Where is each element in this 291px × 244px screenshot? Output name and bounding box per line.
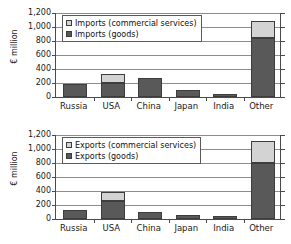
- axis-tick: [281, 41, 285, 42]
- bar-other: [251, 21, 275, 97]
- axis-tick: [52, 177, 56, 178]
- bar-segment-goods: [176, 90, 200, 97]
- gridline: [56, 69, 281, 70]
- axis-tick: [281, 27, 285, 28]
- exports-x-axis-labels: Russia USA China Japan India Other: [55, 223, 280, 237]
- legend-label: Imports (goods): [75, 30, 139, 39]
- bar-india: [213, 216, 237, 219]
- axis-tick: [52, 219, 56, 220]
- y-tick-label: 1,200: [25, 9, 51, 17]
- bar-segment-services: [101, 192, 125, 201]
- y-tick-label: 600: [25, 51, 51, 59]
- gridline: [56, 13, 281, 14]
- bar-japan: [176, 215, 200, 219]
- axis-tick: [52, 69, 56, 70]
- y-tick-label: 0: [25, 93, 51, 101]
- axis-tick: [52, 41, 56, 42]
- axis-tick: [52, 97, 56, 98]
- bar-segment-services: [101, 74, 125, 83]
- imports-legend: Imports (commercial services) Imports (g…: [62, 15, 202, 42]
- imports-y-tick-labels: 1,200 1,000 800 600 400 200 0: [21, 0, 51, 122]
- exports-y-tick-labels: 1,200 1,000 800 600 400 200 0: [21, 122, 51, 244]
- axis-tick: [281, 135, 285, 136]
- bar-russia: [63, 210, 87, 219]
- bar-china: [138, 212, 162, 219]
- axis-tick: [52, 83, 56, 84]
- legend-item-goods: Exports (goods): [66, 151, 196, 161]
- bar-segment-goods: [176, 215, 200, 219]
- gridline: [56, 83, 281, 84]
- x-label-china: China: [130, 101, 168, 111]
- axis-tick: [52, 135, 56, 136]
- x-label-india: India: [205, 101, 243, 111]
- y-tick-label: 800: [25, 159, 51, 167]
- bar-segment-services: [251, 141, 275, 163]
- bar-segment-goods: [213, 216, 237, 219]
- imports-chart: € million 1,200 1,000 800 600 400 200 0: [0, 0, 291, 122]
- bar-segment-goods: [251, 163, 275, 219]
- axis-tick: [281, 97, 285, 98]
- bar-segment-goods: [63, 210, 87, 219]
- x-label-india: India: [205, 223, 243, 233]
- y-tick-label: 0: [25, 215, 51, 223]
- gridline: [56, 135, 281, 136]
- x-label-china: China: [130, 223, 168, 233]
- exports-legend: Exports (commercial services) Exports (g…: [62, 137, 201, 164]
- x-label-russia: Russia: [55, 223, 93, 233]
- x-label-japan: Japan: [168, 223, 206, 233]
- x-label-other: Other: [243, 101, 281, 111]
- axis-tick: [281, 13, 285, 14]
- gridline: [56, 191, 281, 192]
- legend-label: Exports (goods): [75, 152, 138, 161]
- axis-tick: [52, 149, 56, 150]
- gridline: [56, 55, 281, 56]
- y-tick-label: 800: [25, 37, 51, 45]
- axis-tick: [281, 205, 285, 206]
- legend-swatch-icon: [66, 31, 72, 37]
- bar-segment-goods: [251, 38, 275, 97]
- bar-japan: [176, 90, 200, 97]
- axis-tick: [281, 149, 285, 150]
- bar-segment-goods: [138, 212, 162, 219]
- bar-usa: [101, 74, 125, 97]
- legend-label: Exports (commercial services): [75, 141, 196, 150]
- y-tick-label: 1,000: [25, 145, 51, 153]
- bar-india: [213, 94, 237, 98]
- axis-tick: [281, 191, 285, 192]
- y-tick-label: 200: [25, 201, 51, 209]
- axis-tick: [281, 55, 285, 56]
- axis-tick: [52, 55, 56, 56]
- bar-usa: [101, 192, 125, 219]
- axis-tick: [52, 191, 56, 192]
- legend-swatch-icon: [66, 142, 72, 148]
- y-tick-label: 1,200: [25, 131, 51, 139]
- legend-swatch-icon: [66, 20, 72, 26]
- y-tick-label: 400: [25, 187, 51, 195]
- imports-right-axis: [280, 13, 281, 98]
- exports-y-axis-label: € million: [10, 134, 19, 204]
- bar-segment-goods: [101, 83, 125, 97]
- bar-russia: [63, 84, 87, 97]
- stacked-bar-chart-figure: € million 1,200 1,000 800 600 400 200 0: [0, 0, 291, 244]
- axis-tick: [52, 27, 56, 28]
- imports-x-axis-labels: Russia USA China Japan India Other: [55, 101, 280, 115]
- x-label-usa: USA: [93, 223, 131, 233]
- bar-segment-goods: [101, 201, 125, 219]
- y-tick-label: 600: [25, 173, 51, 181]
- axis-tick: [281, 83, 285, 84]
- bar-segment-goods: [213, 94, 237, 98]
- bar-other: [251, 141, 275, 219]
- legend-item-commercial-services: Exports (commercial services): [66, 140, 196, 150]
- y-tick-label: 200: [25, 79, 51, 87]
- x-label-usa: USA: [93, 101, 131, 111]
- x-label-other: Other: [243, 223, 281, 233]
- axis-tick: [52, 163, 56, 164]
- legend-item-commercial-services: Imports (commercial services): [66, 18, 197, 28]
- exports-chart: € million 1,200 1,000 800 600 400 200 0: [0, 122, 291, 244]
- bar-segment-services: [251, 21, 275, 39]
- axis-tick: [281, 219, 285, 220]
- legend-item-goods: Imports (goods): [66, 29, 197, 39]
- axis-tick: [52, 13, 56, 14]
- legend-label: Imports (commercial services): [75, 19, 197, 28]
- axis-tick: [52, 205, 56, 206]
